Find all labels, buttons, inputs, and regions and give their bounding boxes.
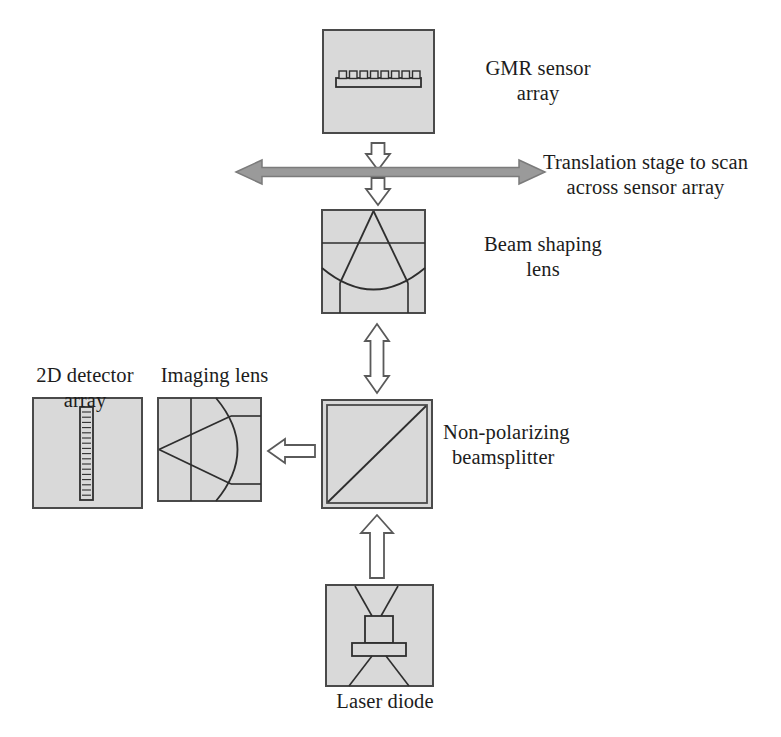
- diagram-page: GMR sensor array Translation stage to sc…: [0, 0, 781, 737]
- laser-beamsplitter-arrow: [361, 515, 393, 578]
- label-translation-stage-line1: Translation stage to scan: [518, 150, 773, 175]
- label-gmr-sensor-array-line1: GMR sensor: [443, 56, 633, 81]
- stage-down-arrow: [366, 178, 390, 205]
- beamsplitter-imaging-arrow: [268, 439, 315, 463]
- laser-diode-base: [352, 643, 406, 656]
- label-detector-array-line2: array: [15, 388, 155, 413]
- gmr-sensor-array-component: [323, 30, 434, 133]
- imaging-lens-component: [158, 398, 261, 501]
- translation-stage-arrow: [236, 160, 545, 184]
- label-gmr-sensor-array: GMR sensor array: [443, 56, 633, 106]
- label-beamsplitter: Non-polarizing beamsplitter: [443, 420, 673, 470]
- label-translation-stage-line2: across sensor array: [518, 175, 773, 200]
- imaging-lens-box: [158, 398, 261, 501]
- label-imaging-lens-line1: Imaging lens: [152, 363, 277, 388]
- label-gmr-sensor-array-line2: array: [443, 81, 633, 106]
- label-beam-shaping-lens: Beam shaping lens: [443, 232, 643, 282]
- laser-diode-body: [365, 616, 393, 643]
- detector-array-component: [33, 398, 142, 508]
- label-detector-array-line1: 2D detector: [15, 363, 155, 388]
- beam-shaping-lens-box: [322, 210, 425, 313]
- label-beamsplitter-line1: Non-polarizing: [443, 420, 673, 445]
- label-laser-diode-line1: Laser diode: [315, 689, 455, 714]
- label-beamsplitter-line2: beamsplitter: [443, 445, 673, 470]
- gmr-up-arrow: [366, 143, 390, 170]
- beamsplitter-component: [322, 400, 432, 508]
- label-translation-stage: Translation stage to scan across sensor …: [518, 150, 773, 200]
- label-laser-diode: Laser diode: [315, 689, 455, 714]
- label-beam-shaping-lens-line2: lens: [443, 257, 643, 282]
- beam-shaping-lens-component: [322, 210, 425, 313]
- laser-diode-component: [326, 585, 433, 686]
- label-beam-shaping-lens-line1: Beam shaping: [443, 232, 643, 257]
- label-detector-array: 2D detector array: [15, 363, 155, 413]
- lens-beamsplitter-arrow: [365, 324, 389, 393]
- label-imaging-lens: Imaging lens: [152, 363, 277, 388]
- gmr-sensor-strip-bar: [336, 78, 421, 87]
